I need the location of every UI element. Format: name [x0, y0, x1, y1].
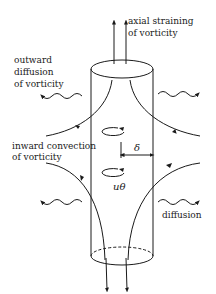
- axial-straining-label-1: axial straining: [128, 16, 194, 26]
- inward-convection-label-1: inward convection: [12, 141, 96, 151]
- inward-convection-label-2: of vorticity: [12, 152, 62, 162]
- delta-dimension: δ: [121, 142, 152, 158]
- outward-diffusion-label-2: diffusion: [14, 67, 54, 77]
- u-theta-label: uθ: [113, 181, 125, 192]
- axial-straining-label-2: of vorticity: [128, 28, 178, 38]
- outward-diffusion-label-3: of vorticity: [14, 79, 64, 89]
- axial-straining-arrows: [114, 22, 126, 64]
- diffusion-label: diffusion: [162, 210, 202, 220]
- outward-diffusion-label-1: outward: [14, 55, 52, 65]
- axial-inflow-arrows: [106, 258, 127, 290]
- vortex-cylinder: [91, 60, 153, 265]
- delta-label: δ: [134, 142, 140, 153]
- vortex-tube-diagram: δ uθ axial straining of vorticity outwar…: [0, 0, 216, 294]
